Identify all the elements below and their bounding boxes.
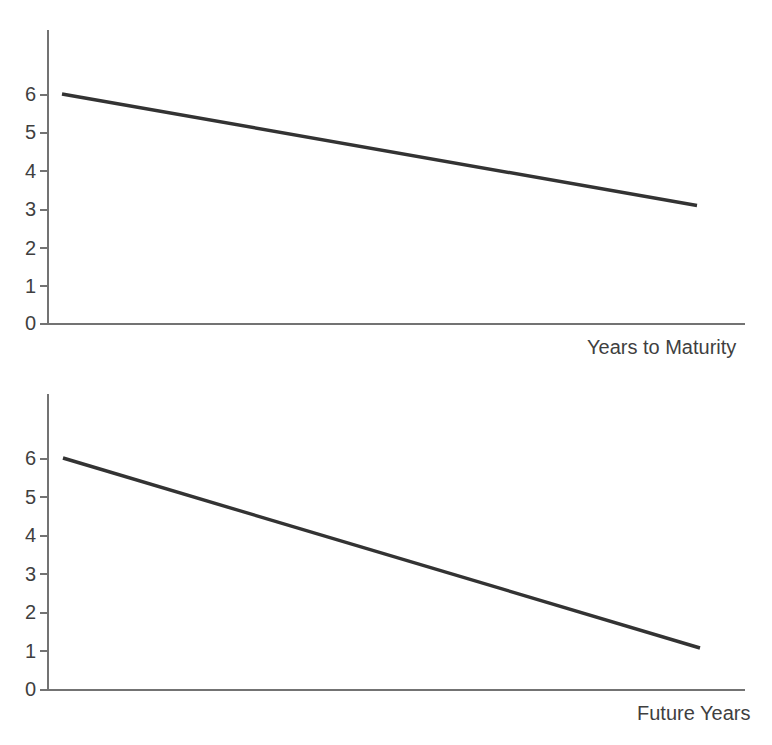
y-tick-label-2-top: 2 <box>10 238 36 258</box>
y-tick-label-5-bottom: 5 <box>10 487 36 507</box>
y-tick-label-6-bottom: 6 <box>10 448 36 468</box>
data-series-line-top <box>62 94 697 206</box>
y-tick-label-3-top: 3 <box>10 199 36 219</box>
x-axis-title-bottom: Future Years <box>637 702 750 724</box>
y-tick-label-4-top: 4 <box>10 161 36 181</box>
y-tick-label-6-top: 6 <box>10 84 36 104</box>
chart-panel-future-years: 6 5 4 3 2 1 0 Future Years <box>0 373 772 745</box>
y-tick-label-1-top: 1 <box>10 276 36 296</box>
y-tick-label-4-bottom: 4 <box>10 525 36 545</box>
y-tick-label-0-top: 0 <box>10 313 36 333</box>
chart-plot-area-top <box>0 0 772 372</box>
chart-plot-area-bottom <box>0 373 772 745</box>
chart-panel-years-to-maturity: 6 5 4 3 2 1 0 Years to Maturity <box>0 0 772 372</box>
y-tick-label-0-bottom: 0 <box>10 679 36 699</box>
figure-container: 6 5 4 3 2 1 0 Years to Maturity 6 5 4 <box>0 0 772 745</box>
x-axis-title-top: Years to Maturity <box>587 336 736 358</box>
y-tick-label-1-bottom: 1 <box>10 641 36 661</box>
data-series-line-bottom <box>63 458 700 648</box>
y-tick-label-5-top: 5 <box>10 122 36 142</box>
y-tick-label-3-bottom: 3 <box>10 564 36 584</box>
y-tick-label-2-bottom: 2 <box>10 602 36 622</box>
